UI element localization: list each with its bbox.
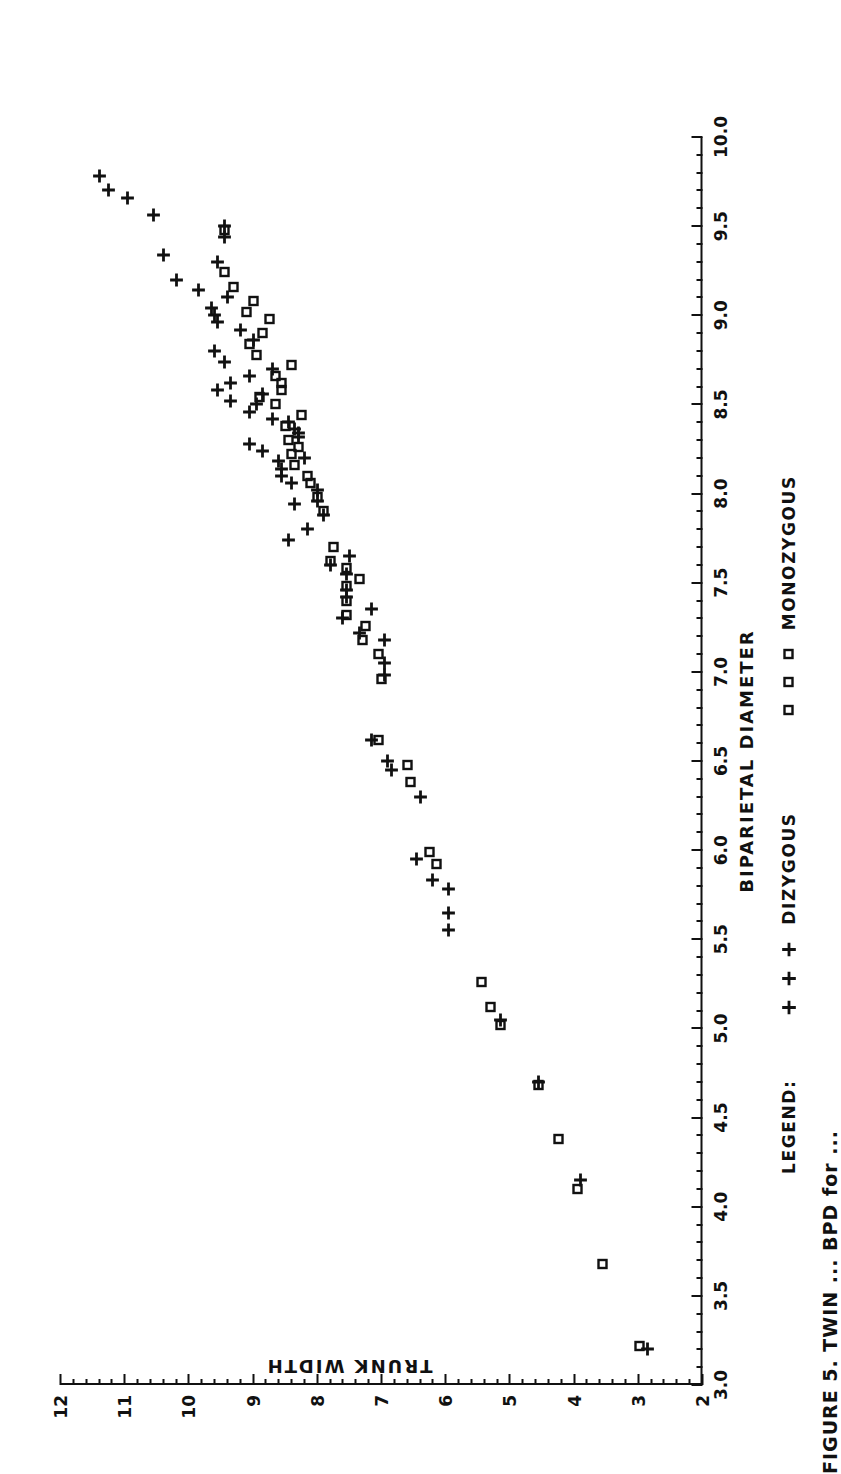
y-tick-minor	[662, 1379, 664, 1385]
x-tick-minor	[696, 510, 702, 512]
x-tick-minor	[696, 1170, 702, 1172]
y-tick-minor	[560, 1379, 562, 1385]
y-tick-minor	[598, 1379, 600, 1385]
data-point-square	[294, 409, 307, 422]
x-tick-minor	[696, 689, 702, 691]
x-tick-minor	[696, 778, 702, 780]
x-tick-major	[691, 493, 702, 495]
data-point-plus	[442, 906, 455, 919]
x-tick-minor	[696, 172, 702, 174]
y-tick-label: 7	[371, 1395, 391, 1407]
y-tick-minor	[303, 1379, 305, 1385]
square-marker-icon	[782, 648, 794, 716]
data-point-square	[227, 280, 240, 293]
x-tick-minor	[696, 1099, 702, 1101]
y-tick-minor	[483, 1379, 485, 1385]
y-tick-major	[187, 1374, 189, 1385]
x-tick-minor	[696, 1045, 702, 1047]
data-point-square	[243, 337, 256, 350]
x-tick-major	[691, 225, 702, 227]
y-tick-label: 11	[114, 1395, 134, 1419]
y-tick-minor	[675, 1379, 677, 1385]
x-tick-major	[691, 938, 702, 940]
x-tick-label: 6.5	[710, 746, 730, 776]
y-tick-minor	[611, 1379, 613, 1385]
y-tick-minor	[264, 1379, 266, 1385]
x-tick-major	[691, 582, 702, 584]
data-point-square	[301, 469, 314, 482]
x-tick-minor	[696, 617, 702, 619]
y-tick-minor	[226, 1379, 228, 1385]
y-tick-label: 12	[50, 1395, 70, 1419]
x-tick-minor	[696, 1366, 702, 1368]
data-point-square	[375, 673, 388, 686]
data-point-plus	[442, 924, 455, 937]
x-tick-major	[691, 1384, 702, 1386]
x-tick-major	[691, 671, 702, 673]
x-tick-major	[691, 403, 702, 405]
data-point-square	[326, 541, 339, 554]
y-tick-minor	[496, 1379, 498, 1385]
data-point-plus	[442, 883, 455, 896]
x-tick-minor	[696, 814, 702, 816]
x-tick-minor	[696, 457, 702, 459]
y-tick-minor	[470, 1379, 472, 1385]
y-tick-minor	[393, 1379, 395, 1385]
x-tick-minor	[696, 1134, 702, 1136]
x-tick-minor	[696, 207, 702, 209]
data-point-square	[484, 1001, 497, 1014]
data-point-plus	[378, 633, 391, 646]
x-tick-minor	[696, 600, 702, 602]
data-point-plus	[243, 369, 256, 382]
x-tick-minor	[696, 190, 702, 192]
y-tick-minor	[341, 1379, 343, 1385]
y-tick-label: 2	[692, 1395, 712, 1407]
data-point-plus	[192, 284, 205, 297]
x-tick-minor	[696, 796, 702, 798]
x-tick-label: 10.0	[710, 116, 730, 158]
legend-title: LEGEND:	[778, 1080, 798, 1174]
x-tick-major	[691, 1027, 702, 1029]
x-tick-minor	[696, 1081, 702, 1083]
x-tick-minor	[696, 1348, 702, 1350]
data-point-square	[339, 562, 352, 575]
x-tick-minor	[696, 439, 702, 441]
x-tick-minor	[696, 992, 702, 994]
x-tick-label: 5.5	[710, 924, 730, 954]
y-tick-minor	[200, 1379, 202, 1385]
x-tick-major	[691, 136, 702, 138]
x-tick-minor	[696, 1331, 702, 1333]
x-tick-minor	[696, 1224, 702, 1226]
x-axis-label: BIPARIETAL DIAMETER	[735, 137, 756, 1385]
y-tick-minor	[98, 1379, 100, 1385]
y-tick-minor	[534, 1379, 536, 1385]
x-tick-minor	[696, 707, 702, 709]
x-tick-label: 8.5	[710, 389, 730, 419]
data-point-square	[355, 633, 368, 646]
data-point-square	[339, 608, 352, 621]
figure-caption: FIGURE 5. TWIN ... BPD for ...	[818, 0, 840, 1474]
data-point-square	[532, 1079, 545, 1092]
data-point-plus	[208, 344, 221, 357]
x-tick-major	[691, 1117, 702, 1119]
legend-entry-monozygous: MONOZYGOUS	[778, 475, 798, 716]
data-point-plus	[204, 302, 217, 315]
x-tick-major	[691, 314, 702, 316]
data-point-square	[474, 976, 487, 989]
y-tick-major	[59, 1374, 61, 1385]
x-tick-label: 4.0	[710, 1192, 730, 1222]
data-point-plus	[156, 248, 169, 261]
y-tick-major	[123, 1374, 125, 1385]
x-tick-minor	[696, 867, 702, 869]
x-tick-minor	[696, 742, 702, 744]
y-tick-minor	[431, 1379, 433, 1385]
data-point-square	[310, 491, 323, 504]
y-tick-label: 10	[178, 1395, 198, 1419]
scatter-plot-area: 3.03.54.04.55.05.56.06.57.07.58.08.59.09…	[60, 137, 702, 1385]
data-point-plus	[243, 437, 256, 450]
x-tick-minor	[696, 1241, 702, 1243]
x-tick-minor	[696, 154, 702, 156]
data-point-plus	[169, 273, 182, 286]
x-tick-label: 3.0	[710, 1370, 730, 1400]
y-tick-minor	[110, 1379, 112, 1385]
